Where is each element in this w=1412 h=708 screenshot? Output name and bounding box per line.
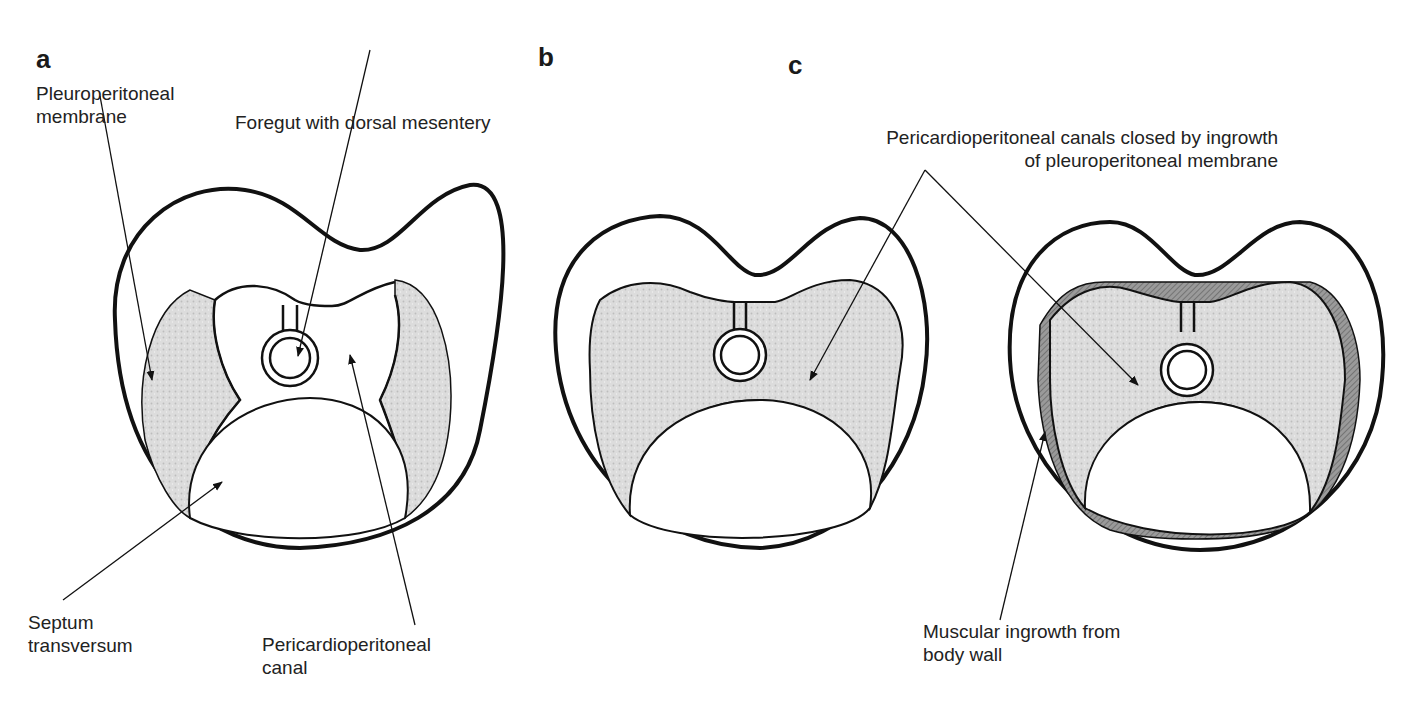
panel-letter-c: c — [788, 52, 802, 78]
diagram-canvas — [0, 0, 1412, 708]
leader-septum — [63, 482, 222, 600]
panel-a-diagram — [63, 50, 503, 625]
foregut-lumen — [1168, 351, 1206, 389]
panel-c-diagram — [925, 170, 1383, 620]
label-foregut: Foregut with dorsal mesentery — [235, 111, 491, 134]
foregut-lumen — [270, 338, 310, 378]
label-septum-transversum: Septum transversum — [28, 611, 133, 657]
panel-letter-a: a — [36, 46, 50, 72]
label-muscular-ingrowth: Muscular ingrowth from body wall — [923, 620, 1120, 666]
label-pleuroperitoneal-membrane: Pleuroperitoneal membrane — [36, 82, 174, 128]
panel-b-diagram — [555, 170, 927, 548]
label-pericardioperitoneal-canal: Pericardioperitoneal canal — [262, 633, 431, 679]
label-canals-closed: Pericardioperitoneal canals closed by in… — [673, 126, 1278, 172]
leader-muscular-ingrowth — [1000, 432, 1045, 620]
panel-letter-b: b — [538, 44, 554, 70]
foregut-lumen — [721, 336, 759, 374]
